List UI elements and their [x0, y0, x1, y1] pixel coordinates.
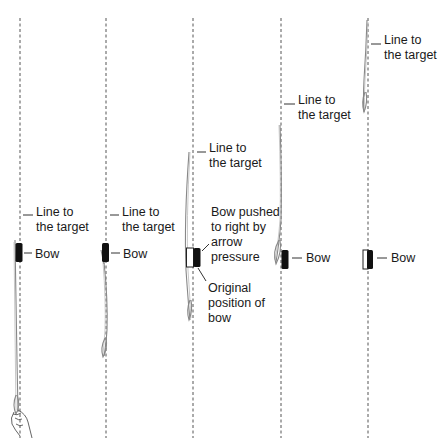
stage-4: Bow Line to the target: [275, 18, 352, 438]
bow-label-2: Bow: [123, 247, 148, 261]
line-label-2b: the target: [122, 220, 175, 234]
line-label-4a: Line to: [298, 93, 336, 107]
archery-sequence-diagram: Bow Line to the target Bow Line to the t…: [0, 0, 443, 438]
bow-pushed-label-4: pressure: [211, 250, 260, 264]
bow-label-1: Bow: [35, 247, 60, 261]
line-label-1a: Line to: [36, 205, 74, 219]
original-position-label-3: bow: [208, 311, 232, 325]
original-position-label-1: Original: [208, 281, 251, 295]
bow-2: [102, 243, 109, 262]
line-label-5a: Line to: [384, 33, 422, 47]
line-label-1b: the target: [36, 220, 89, 234]
original-position-label-2: position of: [208, 296, 266, 310]
line-label-3a: Line to: [209, 141, 247, 155]
bow-pushed-label-2: to right by: [211, 220, 267, 234]
stage-3: Line to the target Bow pushed to right b…: [185, 18, 279, 438]
stage-1: Bow Line to the target: [11, 18, 89, 438]
bow-label-5: Bow: [391, 251, 416, 265]
bow-4: [282, 250, 289, 269]
bow-3: [194, 248, 201, 267]
bow-pushed-label-1: Bow pushed: [211, 205, 280, 219]
bow-1: [16, 243, 23, 262]
line-label-4b: the target: [298, 108, 351, 122]
stage-5: Bow Line to the target: [363, 18, 438, 438]
line-label-2a: Line to: [122, 205, 160, 219]
bow-label-4: Bow: [306, 251, 331, 265]
line-label-3b: the target: [209, 156, 262, 170]
bow-5: [367, 250, 373, 269]
bow-pushed-label-3: arrow: [211, 235, 243, 249]
original-bow-position: [187, 248, 194, 267]
hand-icon: [11, 410, 32, 438]
line-label-5b: the target: [384, 48, 437, 62]
stage-2: Bow Line to the target: [101, 18, 175, 438]
